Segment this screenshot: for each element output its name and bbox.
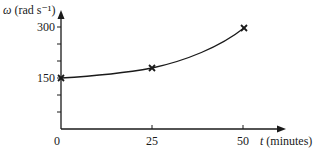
y-tick-label-300: 300 <box>37 20 55 34</box>
x-axis-unit: (minutes) <box>266 134 312 148</box>
y-tick-label-150: 150 <box>37 71 55 85</box>
y-axis-variable: ω <box>3 3 11 17</box>
x-tick-label-25: 25 <box>146 134 158 148</box>
x-axis-title: t (minutes) <box>260 134 312 148</box>
marker-x-icon <box>241 25 247 31</box>
x-axis-variable: t <box>260 134 264 148</box>
y-axis-unit: (rad s⁻¹) <box>14 3 55 17</box>
chart-canvas: 300 150 0 25 50 ω (rad s⁻¹) t (minutes) <box>0 0 315 154</box>
data-markers <box>58 25 247 81</box>
y-axis-arrow-icon <box>58 10 65 19</box>
x-tick-label-50: 50 <box>237 134 249 148</box>
y-axis-title: ω (rad s⁻¹) <box>3 3 55 17</box>
omega-curve <box>61 28 244 78</box>
origin-label: 0 <box>54 134 60 148</box>
x-axis-arrow-icon <box>277 126 286 133</box>
